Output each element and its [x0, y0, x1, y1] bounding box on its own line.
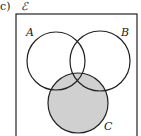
set-b-label: B	[121, 26, 129, 39]
venn-diagram	[0, 0, 141, 136]
set-a-label: A	[26, 26, 34, 39]
set-a-circle	[27, 32, 85, 90]
set-c-label: C	[104, 120, 112, 133]
